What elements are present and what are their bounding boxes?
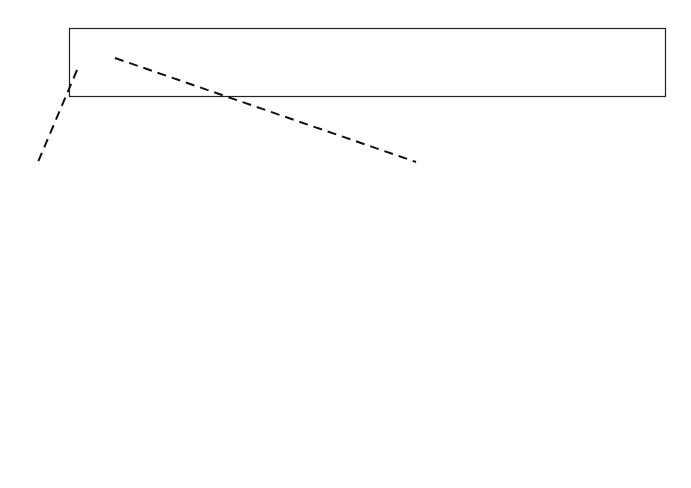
ruler-diagram — [0, 0, 691, 488]
ruler-body — [70, 29, 666, 97]
